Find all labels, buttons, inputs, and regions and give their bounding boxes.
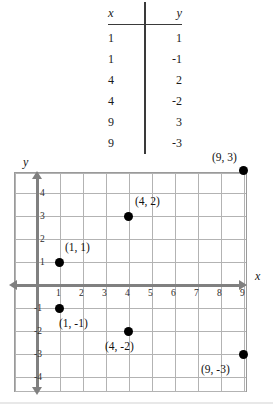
y-tick-3: 3 [40,211,45,221]
table-cell-y-3: -2 [152,94,182,108]
y-tick-1: 1 [40,257,45,267]
y-tick-4: 4 [40,188,45,198]
table-cell-x-3: 4 [108,94,138,108]
coordinate-value-table: x y 1 1 1 -1 4 2 4 -2 9 3 9 -3 [108,2,182,154]
table-cell-y-1: -1 [152,52,182,66]
y-axis-arrow-down [32,387,42,395]
gridline-h-1 [15,193,246,194]
gridline-v-7 [175,173,176,391]
table-cell-x-1: 1 [108,52,138,66]
x-tick-8: 8 [217,288,222,298]
y-tick-neg-1: -1 [34,303,42,313]
gridline-v-5 [129,173,130,391]
x-tick-4: 4 [125,288,130,298]
gridline-v-8 [198,173,199,391]
x-axis-arrow-left [9,280,17,290]
gridline-h-0 [15,173,246,174]
table-header-y: y [152,6,182,20]
data-point-label-4-neg2: (4, -2) [105,340,134,353]
gridline-h-6 [15,308,246,309]
x-axis-line [17,284,239,287]
gridline-h-9 [15,377,246,378]
y-axis-label: y [23,156,28,169]
coordinate-plane-graph: y x 1 2 3 4 [0,152,273,404]
x-tick-5: 5 [148,288,153,298]
gridline-h-4 [15,262,246,263]
x-tick-7: 7 [194,288,199,298]
gridline-v-9 [221,173,222,391]
table-header-x: x [108,6,138,20]
x-tick-1: 1 [56,288,61,298]
data-point-label-9-neg3: (9, -3) [201,363,230,376]
gridline-h-3 [15,239,246,240]
y-tick-neg-3: -3 [34,349,42,359]
table-cell-y-4: 3 [152,115,182,129]
gridline-h-8 [15,354,246,355]
gridline-v-3 [83,173,84,391]
x-tick-2: 2 [79,288,84,298]
y-tick-neg-2: -2 [34,326,42,336]
table-header-rule [108,24,182,25]
table-cell-x-0: 1 [108,31,138,45]
y-tick-2: 2 [40,234,45,244]
data-point-label-1-1: (1, 1) [65,241,90,254]
x-axis-label: x [255,270,260,283]
x-tick-3: 3 [102,288,107,298]
data-point-1-1 [55,258,64,267]
data-point-1-neg1 [55,304,64,313]
x-tick-9: 9 [240,288,245,298]
data-point-label-4-2: (4, 2) [135,195,160,208]
x-tick-6: 6 [171,288,176,298]
data-point-label-9-3: (9, 3) [212,151,237,164]
table-cell-x-5: 9 [108,136,138,150]
gridline-h-10 [15,391,246,392]
table-cell-x-4: 9 [108,115,138,129]
data-point-9-3 [239,166,248,175]
y-tick-neg-4: -4 [34,372,42,382]
table-cell-y-5: -3 [152,136,182,150]
gridline-v-2 [60,173,61,391]
table-cell-y-2: 2 [152,73,182,87]
data-point-4-2 [124,212,133,221]
gridline-v-4 [106,173,107,391]
data-point-label-1-neg1: (1, -1) [59,317,88,330]
table-cell-x-2: 4 [108,73,138,87]
data-point-4-neg2 [124,327,133,336]
y-axis-arrow-up [32,171,42,179]
plot-frame: 1 2 3 4 5 6 7 8 9 1 2 3 4 -1 -2 -3 -4 (1… [14,172,247,392]
table-cell-y-0: 1 [152,31,182,45]
data-point-9-neg3 [239,350,248,359]
